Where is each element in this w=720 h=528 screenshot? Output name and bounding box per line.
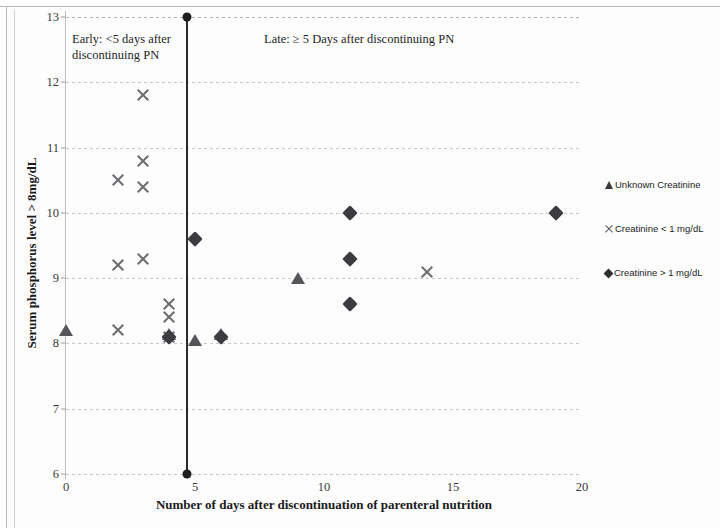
scan-border-inner <box>14 10 15 528</box>
y-tick-label: 6 <box>53 467 59 482</box>
data-point-cross <box>136 252 150 266</box>
y-tick-label: 12 <box>47 75 60 90</box>
data-point-cross <box>162 297 176 311</box>
scatter-plot-figure: 678910111213 05101520 Early: <5 days aft… <box>0 0 720 528</box>
gridline-y <box>66 409 582 410</box>
divider-dot-top <box>182 13 191 22</box>
y-tick-mark <box>61 147 65 148</box>
triangle-icon <box>605 181 613 189</box>
data-point-diamond <box>161 329 177 345</box>
y-axis-title: Serum phosphorus level > 8mg/dL <box>24 53 40 453</box>
data-point-cross <box>111 323 125 337</box>
x-tick-label: 10 <box>318 480 331 495</box>
y-tick-label: 9 <box>53 271 59 286</box>
x-tick-label: 5 <box>192 480 198 495</box>
data-point-diamond <box>342 251 358 267</box>
divider-line <box>186 17 188 474</box>
legend-item-cross: Creatinine < 1 mg/dL <box>604 224 720 235</box>
chart-legend: Unknown CreatinineCreatinine < 1 mg/dLCr… <box>604 180 720 312</box>
y-tick-label: 13 <box>47 10 60 25</box>
legend-item-diamond: Creatinine > 1 mg/dL <box>604 268 720 279</box>
gridline-y <box>66 474 582 475</box>
legend-item-triangle: Unknown Creatinine <box>604 180 720 191</box>
scan-border-left <box>6 6 7 528</box>
data-point-cross <box>111 173 125 187</box>
x-tick-label: 20 <box>576 480 589 495</box>
data-point-cross <box>136 154 150 168</box>
gridline-y <box>66 213 582 214</box>
cross-icon <box>604 225 613 234</box>
data-point-cross <box>136 88 150 102</box>
x-axis-title: Number of days after discontinuation of … <box>66 497 582 513</box>
annotation-early: Early: <5 days after discontinuing PN <box>72 31 212 63</box>
x-tick-label: 15 <box>447 480 460 495</box>
data-point-triangle <box>59 324 73 336</box>
legend-item-label: Unknown Creatinine <box>615 180 701 191</box>
divider-dot-bottom <box>182 470 191 479</box>
gridline-y <box>66 17 582 18</box>
plot-area: 678910111213 05101520 Early: <5 days aft… <box>66 17 582 474</box>
data-point-cross <box>111 258 125 272</box>
y-tick-mark <box>61 408 65 409</box>
diamond-icon <box>604 268 614 278</box>
gridline-y <box>66 343 582 344</box>
data-point-cross <box>162 330 176 344</box>
legend-item-label: Creatinine < 1 mg/dL <box>615 224 703 235</box>
x-tick-label: 0 <box>63 480 69 495</box>
data-point-diamond <box>213 329 229 345</box>
gridline-y <box>66 148 582 149</box>
y-tick-mark <box>61 17 65 18</box>
y-tick-label: 8 <box>53 336 59 351</box>
data-point-cross <box>162 310 176 324</box>
y-tick-mark <box>61 212 65 213</box>
data-point-cross <box>136 180 150 194</box>
gridline-y <box>66 82 582 83</box>
scan-border-top <box>0 6 720 7</box>
data-point-triangle <box>162 328 176 340</box>
y-tick-mark <box>61 82 65 83</box>
y-tick-label: 10 <box>47 205 60 220</box>
y-tick-mark <box>61 343 65 344</box>
y-tick-mark <box>61 278 65 279</box>
data-point-cross <box>420 265 434 279</box>
y-tick-mark <box>61 474 65 475</box>
annotation-late: Late: ≥ 5 Days after discontinuing PN <box>264 31 564 47</box>
y-tick-label: 7 <box>53 401 59 416</box>
gridline-y <box>66 278 582 279</box>
y-tick-label: 11 <box>47 140 59 155</box>
data-point-triangle <box>214 328 228 340</box>
data-point-diamond <box>187 231 203 247</box>
legend-item-label: Creatinine > 1 mg/dL <box>614 268 702 279</box>
data-point-diamond <box>342 296 358 312</box>
